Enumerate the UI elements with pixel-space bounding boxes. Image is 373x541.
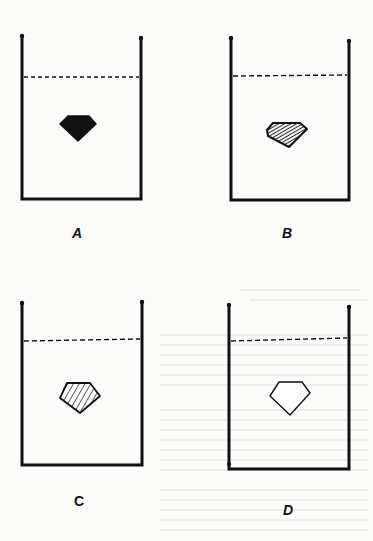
gem-outline-icon bbox=[270, 382, 310, 415]
beaker-d bbox=[0, 0, 373, 541]
liquid-level-d bbox=[231, 338, 347, 341]
panel-label-d: D bbox=[283, 502, 293, 518]
beaker-panel-d: D bbox=[0, 0, 373, 541]
